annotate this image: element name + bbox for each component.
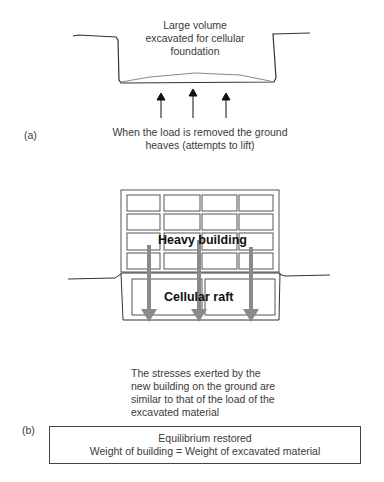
heave-arrows [157,89,230,118]
ground-line [68,274,121,279]
excavation-text-line: Large volume [130,19,260,32]
equilibrium-box: Equilibrium restored Weight of building … [49,426,361,464]
heavy-building-label: Heavy building [158,233,247,247]
equilibrium-equation: Weight of building = Weight of excavated… [50,445,360,458]
ground-line-right [279,274,330,276]
panel-b-caption: The stresses exerted by the new building… [131,367,291,419]
excavation-bottom-fill-line [121,73,274,82]
load-arrows [141,240,259,322]
panel-a-caption: When the load is removed the ground heav… [100,126,300,152]
excavation-text: Large volume excavated for cellular foun… [130,19,260,58]
caption-line: When the load is removed the ground [100,126,300,139]
excavation-text-line: excavated for cellular [130,32,260,45]
caption-line: similar to that of the load of the [131,393,291,406]
caption-line: excavated material [131,406,291,419]
equilibrium-title: Equilibrium restored [50,432,360,445]
caption-line: The stresses exerted by the [131,367,291,380]
caption-line: heaves (attempts to lift) [100,139,300,152]
panel-a-label: (a) [24,129,37,142]
excavation-text-line: foundation [130,45,260,58]
cellular-raft-label: Cellular raft [164,290,233,304]
caption-line: new building on the ground are [131,380,291,393]
panel-b-label: (b) [22,424,35,437]
